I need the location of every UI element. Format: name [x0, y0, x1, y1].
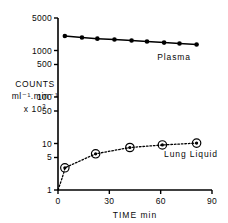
- y-axis-tick-label: 1: [47, 186, 52, 195]
- y-axis-tick-label: 5: [47, 153, 52, 162]
- data-point-marker: [94, 152, 97, 155]
- data-point-marker: [128, 146, 131, 149]
- y-axis-title-line-counts: COUNTS: [6, 78, 64, 90]
- data-point-marker: [63, 34, 68, 39]
- series-annotation-label: Plasma: [157, 53, 191, 62]
- y-axis-multiplier-base: x 10: [24, 104, 42, 114]
- data-point-marker: [177, 41, 182, 46]
- x-axis-title: TIME min: [48, 211, 222, 220]
- data-point-marker: [161, 143, 164, 146]
- y-axis-tick-label: 5000: [32, 14, 52, 23]
- series-annotation-label: Lung Liquid: [164, 150, 218, 159]
- data-point-marker: [112, 37, 117, 42]
- data-point-marker: [145, 39, 150, 44]
- y-axis-title: COUNTS ml⁻¹.min⁻¹ x 103: [6, 78, 64, 115]
- data-point-marker: [129, 38, 134, 43]
- y-axis-tick-label: 1000: [32, 47, 52, 56]
- data-point-marker: [162, 40, 167, 45]
- data-point-marker: [195, 142, 198, 145]
- y-axis-tick-label: 500: [37, 60, 52, 69]
- data-point-marker: [63, 166, 66, 169]
- y-axis-title-line-units: ml⁻¹.min⁻¹: [6, 90, 64, 102]
- data-point-marker: [95, 36, 100, 41]
- data-point-marker: [80, 35, 85, 40]
- chart-figure: 15105010050010005000 0306090 COUNTS ml⁻¹…: [0, 0, 228, 223]
- x-axis-tick-label: 90: [192, 197, 228, 206]
- y-axis-title-line-multiplier: x 103: [6, 103, 64, 115]
- x-axis-tick-label: 30: [89, 197, 129, 206]
- data-point-marker: [194, 42, 199, 47]
- y-axis-tick-label: 10: [42, 140, 52, 149]
- y-axis-multiplier-exponent: 3: [42, 103, 46, 109]
- x-axis-tick-label: 60: [141, 197, 181, 206]
- x-axis-tick-label: 0: [38, 197, 78, 206]
